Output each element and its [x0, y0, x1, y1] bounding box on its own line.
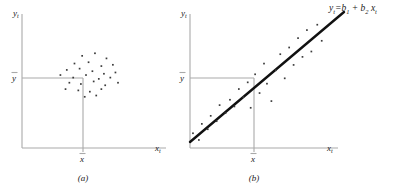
scatter-point [284, 77, 286, 79]
scatter-point [109, 77, 111, 79]
panel-a-ybar-label: y [11, 73, 16, 83]
scatter-point [225, 112, 227, 114]
scatter-point [311, 51, 313, 53]
panel-a-x-axis-label: xt [154, 143, 161, 154]
scatter-point [288, 47, 290, 49]
scatter-point [106, 58, 108, 60]
scatter-point [306, 29, 308, 31]
panel-b-regression-line [190, 12, 344, 142]
figure-container: yt xt y x yt xt y x ̂yt=b1 + b2 xt (a) (… [0, 0, 399, 194]
scatter-point [297, 37, 299, 39]
scatter-point [219, 104, 221, 106]
panel-b-xbar-label: x [250, 154, 255, 164]
scatter-point [293, 64, 295, 66]
scatter-point [254, 73, 256, 75]
scatter-point [101, 65, 103, 67]
scatter-point [65, 88, 67, 90]
scatter-point [247, 81, 249, 83]
scatter-point [259, 92, 261, 94]
scatter-point [275, 69, 277, 71]
scatter-point [77, 90, 79, 92]
scatter-point [229, 99, 231, 101]
panel-b-y-axis-label: yt [180, 8, 187, 19]
scatter-point [85, 74, 87, 76]
scatter-point [94, 52, 96, 54]
panel-a-xbar-label: x [79, 154, 84, 164]
scatter-point [192, 132, 194, 134]
scatter-point [98, 78, 100, 80]
scatter-point [84, 96, 86, 98]
scatter-point [238, 88, 240, 90]
hat-accent-icon: ̂ [329, 0, 333, 7]
panel-a-y-axis-label: yt [12, 8, 19, 19]
scatter-point [321, 40, 323, 42]
scatter-point [316, 24, 318, 26]
scatter-point [210, 115, 212, 117]
scatter-point [198, 139, 200, 141]
scatter-point [81, 55, 83, 57]
scatter-point [101, 88, 103, 90]
figure-svg: yt xt y x yt xt y x [0, 0, 399, 194]
scatter-point [72, 77, 74, 79]
scatter-point [88, 61, 90, 63]
panel-b-group [190, 12, 344, 152]
regression-equation-label: ̂yt=b1 + b2 xt [329, 3, 377, 15]
scatter-point [242, 96, 244, 98]
scatter-point [250, 107, 252, 109]
scatter-point [66, 69, 68, 71]
scatter-point [112, 64, 114, 66]
scatter-point [279, 53, 281, 55]
scatter-point [263, 63, 265, 65]
scatter-point [92, 70, 94, 72]
scatter-point [216, 120, 218, 122]
panel-a-scatter-points [60, 52, 119, 97]
scatter-point [95, 95, 97, 97]
scatter-point [302, 56, 304, 58]
scatter-point [234, 106, 236, 108]
panel-a-group [22, 14, 166, 152]
panel-a-caption: (a) [63, 173, 103, 183]
scatter-point [89, 91, 91, 93]
scatter-point [69, 82, 71, 84]
scatter-point [201, 123, 203, 125]
scatter-point [80, 83, 82, 85]
scatter-point [104, 84, 106, 86]
panel-b-ybar-label: y [179, 73, 184, 83]
scatter-point [266, 83, 268, 85]
scatter-point [117, 82, 119, 84]
scatter-point [207, 128, 209, 130]
scatter-point [60, 74, 62, 76]
scatter-point [271, 100, 273, 102]
scatter-point [103, 73, 105, 75]
scatter-point [93, 81, 95, 83]
scatter-point [74, 63, 76, 65]
y-hat-glyph: ̂y [329, 3, 333, 13]
panel-b-caption: (b) [234, 173, 274, 183]
scatter-point [79, 68, 81, 70]
panel-b-x-axis-label: xt [326, 143, 333, 154]
scatter-point [115, 72, 117, 74]
